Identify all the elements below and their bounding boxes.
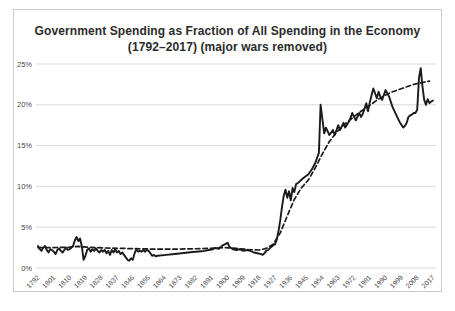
x-tick-label: 1846 [120,274,136,290]
y-tick-label: 5% [21,223,32,232]
x-tick-label: 1999 [388,274,404,290]
x-tick-label: 1864 [151,274,167,290]
x-tick-label: 1972 [341,274,357,290]
x-tick-label: 1891 [199,274,215,290]
x-tick-label: 1954 [309,274,325,290]
chart-plot: 0%5%10%15%20%25%179218011810181918281837… [0,0,455,311]
x-tick-label: 1900 [215,274,231,290]
page: { "style": { "title_color": "#2b2b2b", "… [0,0,455,311]
x-tick-label: 1936 [278,274,294,290]
x-tick-label: 2008 [404,274,420,290]
x-tick-label: 1828 [88,274,104,290]
x-tick-label: 1918 [246,274,262,290]
x-tick-label: 1927 [262,274,278,290]
x-tick-label: 1837 [104,274,120,290]
x-tick-label: 1855 [136,274,152,290]
y-tick-label: 20% [17,100,32,109]
x-tick-label: 1990 [373,274,389,290]
x-tick-label: 1801 [41,274,57,290]
y-tick-label: 10% [17,182,32,191]
x-tick-label: 1819 [72,274,88,290]
x-tick-label: 2017 [420,274,436,290]
y-tick-label: 0% [21,264,32,273]
x-tick-label: 1882 [183,274,199,290]
x-tick-label: 1909 [230,274,246,290]
x-tick-label: 1963 [325,274,341,290]
series-solid [38,68,433,261]
x-tick-label: 1810 [57,274,73,290]
x-tick-label: 1792 [25,274,41,290]
y-tick-label: 25% [17,60,32,69]
x-tick-label: 1945 [294,274,310,290]
x-tick-label: 1873 [167,274,183,290]
y-tick-label: 15% [17,141,32,150]
series-dashed [38,81,430,250]
x-tick-label: 1981 [357,274,373,290]
